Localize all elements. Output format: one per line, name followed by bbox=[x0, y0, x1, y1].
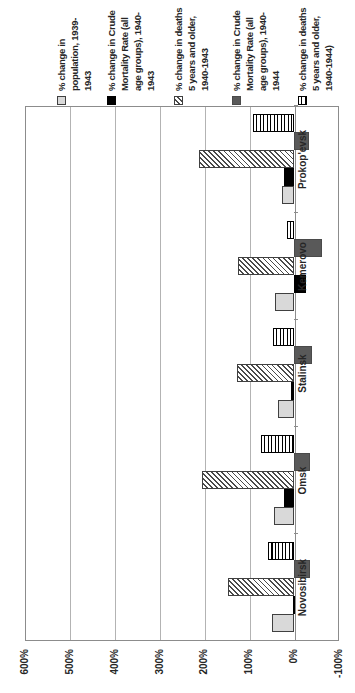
category-label: Kemerovo bbox=[297, 213, 308, 320]
gridline bbox=[70, 107, 71, 640]
category-label: Novosibirsk bbox=[297, 534, 308, 641]
value-axis-label: 500% bbox=[65, 649, 75, 693]
bar-prokop'evsk-series5 bbox=[253, 115, 294, 133]
legend: % change in population, 1939- 1943% chan… bbox=[0, 1, 355, 105]
bar-stalinsk-series3 bbox=[237, 365, 294, 383]
bar-kemerovo-series5 bbox=[287, 222, 295, 240]
value-axis-label: -100% bbox=[334, 649, 344, 693]
legend-entry: % change in population, 1939- 1943 bbox=[55, 1, 94, 105]
bar-novosibirsk-series3 bbox=[228, 579, 294, 597]
bar-omsk-series5 bbox=[261, 436, 294, 454]
bar-prokop'evsk-series2 bbox=[284, 169, 294, 187]
bar-prokop'evsk-series3 bbox=[199, 151, 294, 169]
bar-novosibirsk-series1 bbox=[272, 615, 294, 633]
legend-entry: % change in Crude Mortality Rate (all ag… bbox=[230, 1, 282, 105]
value-axis-label: 300% bbox=[155, 649, 165, 693]
legend-entry-label: % change in deaths 5 years and older, 19… bbox=[296, 1, 335, 91]
gridline bbox=[115, 107, 116, 640]
bar-prokop'evsk-series1 bbox=[282, 187, 294, 205]
legend-entry: % change in deaths 5 years and older, 19… bbox=[296, 1, 335, 105]
value-axis-label: 0% bbox=[289, 649, 299, 693]
bar-omsk-series2 bbox=[284, 490, 294, 508]
category-label: Stalinsk bbox=[297, 320, 308, 427]
legend-entry-label: % change in Crude Mortality Rate (all ag… bbox=[230, 1, 282, 91]
category-label: Omsk bbox=[297, 427, 308, 534]
category-label: Prokop'evsk bbox=[297, 106, 308, 213]
gridline bbox=[205, 107, 206, 640]
value-axis-label: 200% bbox=[199, 649, 209, 693]
bar-stalinsk-series5 bbox=[273, 329, 295, 347]
legend-entry: % change in Crude Mortality Rate (all ag… bbox=[105, 1, 157, 105]
bar-novosibirsk-series2 bbox=[293, 597, 295, 615]
legend-entry: % change in deaths 5 years and older, 19… bbox=[172, 1, 211, 105]
bar-omsk-series3 bbox=[202, 472, 294, 490]
legend-entry-label: % change in population, 1939- 1943 bbox=[55, 1, 94, 91]
bar-novosibirsk-series5 bbox=[268, 543, 294, 561]
legend-entry-label: % change in deaths 5 years and older, 19… bbox=[172, 1, 211, 91]
legend-swatch-solid-dark-gray bbox=[232, 96, 241, 105]
legend-entry-label: % change in Crude Mortality Rate (all ag… bbox=[105, 1, 157, 91]
bar-omsk-series1 bbox=[274, 508, 294, 526]
legend-swatch-horizontal-line-pattern bbox=[298, 96, 307, 105]
gridline bbox=[160, 107, 161, 640]
bar-kemerovo-series1 bbox=[275, 294, 294, 312]
bar-stalinsk-series1 bbox=[278, 401, 294, 419]
legend-swatch-solid-light-gray bbox=[57, 96, 66, 105]
bar-kemerovo-series3 bbox=[238, 258, 294, 276]
value-axis-label: 600% bbox=[20, 649, 30, 693]
value-axis-label: 400% bbox=[110, 649, 120, 693]
value-axis-label: 100% bbox=[244, 649, 254, 693]
bar-chart: 600%500%400%300%200%100%0%-100% Novosibi… bbox=[0, 0, 355, 693]
bar-stalinsk-series2 bbox=[291, 383, 294, 401]
legend-swatch-diagonal-hatch bbox=[174, 96, 183, 105]
legend-swatch-solid-black bbox=[107, 96, 116, 105]
rotated-chart-page: 600%500%400%300%200%100%0%-100% Novosibi… bbox=[0, 0, 355, 693]
